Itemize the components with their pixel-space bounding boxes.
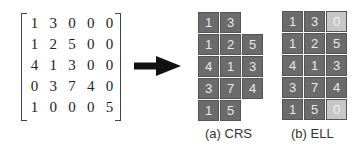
ell-cell: 3 — [282, 77, 303, 98]
crs-cell: 4 — [198, 56, 219, 77]
matrix-cell: 5 — [100, 97, 119, 117]
sparse-matrix: 1 3 0 0 0 1 2 5 0 0 4 1 3 0 0 0 3 7 4 0 … — [21, 13, 121, 121]
crs-cell: 5 — [220, 100, 241, 121]
matrix-cell: 1 — [44, 55, 63, 75]
ell-cell: 3 — [326, 55, 347, 76]
ell-cell: 2 — [304, 33, 325, 54]
matrix-cell: 0 — [63, 13, 82, 33]
crs-cell: 1 — [198, 100, 219, 121]
matrix-cell: 3 — [63, 55, 82, 75]
matrix-cell: 0 — [81, 97, 100, 117]
ell-cell: 1 — [282, 33, 303, 54]
arrow-right-icon — [132, 56, 182, 76]
matrix-cell: 7 — [63, 76, 82, 96]
matrix-cell: 3 — [44, 13, 63, 33]
matrix-cell: 1 — [25, 13, 44, 33]
ell-padding-cell: 0 — [326, 11, 347, 32]
matrix-cell: 0 — [100, 34, 119, 54]
crs-cell: 1 — [198, 34, 219, 55]
matrix-cell: 0 — [25, 76, 44, 96]
ell-cell: 1 — [282, 11, 303, 32]
matrix-row: 0 3 7 4 0 — [25, 76, 119, 96]
crs-cell: 1 — [198, 12, 219, 33]
matrix-cell: 0 — [44, 97, 63, 117]
matrix-cell: 3 — [44, 76, 63, 96]
matrix-cell: 2 — [44, 34, 63, 54]
ell-cell: 1 — [282, 99, 303, 120]
ell-cell: 1 — [304, 55, 325, 76]
matrix-cell: 0 — [81, 13, 100, 33]
ell-cell: 5 — [304, 99, 325, 120]
matrix-cell: 0 — [81, 34, 100, 54]
crs-cell: 5 — [242, 34, 263, 55]
matrix-cell: 0 — [100, 55, 119, 75]
ell-cell: 5 — [326, 33, 347, 54]
matrix-cell: 1 — [25, 34, 44, 54]
matrix-cell: 5 — [63, 34, 82, 54]
matrix-cell: 0 — [81, 55, 100, 75]
matrix-row: 4 1 3 0 0 — [25, 55, 119, 75]
crs-cell: 7 — [220, 78, 241, 99]
crs-cell: 4 — [242, 78, 263, 99]
crs-caption: (a) CRS — [205, 126, 252, 141]
matrix-row: 1 0 0 0 5 — [25, 97, 119, 117]
matrix-row: 1 2 5 0 0 — [25, 34, 119, 54]
crs-cell: 3 — [242, 56, 263, 77]
crs-cell: 3 — [220, 12, 241, 33]
crs-cell: 2 — [220, 34, 241, 55]
crs-cell: 3 — [198, 78, 219, 99]
matrix-cell: 0 — [100, 13, 119, 33]
crs-cell: 1 — [220, 56, 241, 77]
matrix-cell: 4 — [81, 76, 100, 96]
matrix-cell: 0 — [63, 97, 82, 117]
matrix-row: 1 3 0 0 0 — [25, 13, 119, 33]
matrix-cell: 4 — [25, 55, 44, 75]
ell-caption: (b) ELL — [291, 126, 334, 141]
matrix-cell: 0 — [100, 76, 119, 96]
ell-cell: 4 — [282, 55, 303, 76]
matrix-cell: 1 — [25, 97, 44, 117]
ell-cell: 3 — [304, 11, 325, 32]
ell-padding-cell: 0 — [326, 99, 347, 120]
ell-cell: 4 — [326, 77, 347, 98]
ell-cell: 7 — [304, 77, 325, 98]
